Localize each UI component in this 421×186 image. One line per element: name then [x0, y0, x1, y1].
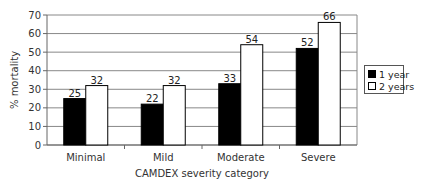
y-tick-label: 70	[28, 10, 41, 21]
y-axis-ticks: 010203040506070	[28, 10, 41, 151]
legend: 1 year 2 years	[364, 65, 404, 94]
bar-value-label: 25	[68, 88, 81, 99]
bars: 2532223233545266	[64, 11, 341, 145]
bar-2-years-moderate	[241, 45, 263, 145]
bar-value-label: 66	[323, 11, 336, 22]
bar-2-years-minimal	[86, 86, 108, 145]
y-axis-title: % mortality	[9, 51, 20, 109]
x-category-label: Minimal	[66, 152, 105, 163]
x-axis-categories: MinimalMildModerateSevere	[66, 152, 335, 163]
bar-1-year-moderate	[219, 84, 241, 145]
legend-swatch-white	[368, 82, 376, 90]
bar-value-label: 32	[168, 75, 181, 86]
bar-1-year-severe	[296, 48, 318, 145]
y-tick-label: 60	[28, 28, 41, 39]
legend-swatch-black	[368, 70, 376, 78]
bar-chart: 010203040506070 2532223233545266 Minimal…	[0, 0, 421, 186]
y-tick-label: 20	[28, 102, 41, 113]
bar-value-label: 22	[146, 93, 159, 104]
x-category-label: Severe	[301, 152, 336, 163]
y-tick-label: 0	[35, 140, 41, 151]
bar-value-label: 52	[301, 37, 314, 48]
y-tick-label: 10	[28, 121, 41, 132]
bar-2-years-mild	[163, 86, 185, 145]
y-tick-label: 50	[28, 47, 41, 58]
legend-item-2-years: 2 years	[368, 80, 403, 92]
bar-value-label: 33	[223, 73, 236, 84]
x-axis-title: CAMDEX severity category	[135, 168, 269, 179]
bar-value-label: 54	[245, 34, 258, 45]
legend-label: 2 years	[379, 81, 414, 92]
y-tick-label: 30	[28, 84, 41, 95]
bar-value-label: 32	[90, 75, 103, 86]
y-tick-label: 40	[28, 65, 41, 76]
x-category-label: Mild	[153, 152, 174, 163]
bar-2-years-severe	[318, 22, 340, 145]
bar-1-year-mild	[141, 104, 163, 145]
bar-1-year-minimal	[64, 99, 86, 145]
legend-item-1-year: 1 year	[368, 68, 403, 80]
x-category-label: Moderate	[217, 152, 265, 163]
legend-label: 1 year	[379, 69, 409, 80]
